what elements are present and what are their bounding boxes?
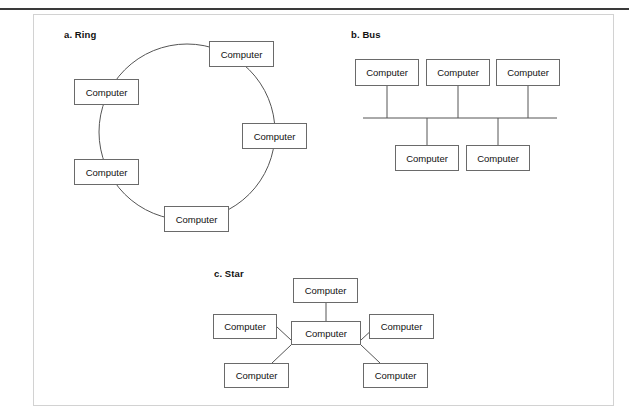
node-label: Computer <box>86 87 128 98</box>
bus-node-bottom-right[interactable]: Computer <box>466 145 530 171</box>
bus-node-top-center[interactable]: Computer <box>426 59 490 86</box>
node-label: Computer <box>86 167 128 178</box>
node-label: Computer <box>406 153 448 164</box>
node-label: Computer <box>437 67 479 78</box>
figure-page: a. Ring Computer Computer Computer Compu… <box>0 0 629 419</box>
star-spoke-bottom-left <box>272 345 291 363</box>
caption-divider-rule <box>0 8 629 10</box>
ring-node-top[interactable]: Computer <box>209 41 274 67</box>
ring-node-left-upper[interactable]: Computer <box>74 79 139 105</box>
bus-node-top-right[interactable]: Computer <box>496 59 560 86</box>
node-label: Computer <box>176 214 218 225</box>
ring-node-left-lower[interactable]: Computer <box>74 159 139 185</box>
bus-node-bottom-left[interactable]: Computer <box>395 145 459 171</box>
node-label: Computer <box>366 67 408 78</box>
star-spoke-bottom-right <box>361 345 380 363</box>
ring-node-bottom[interactable]: Computer <box>164 206 229 232</box>
star-node-bottom-left[interactable]: Computer <box>224 363 289 388</box>
star-node-top[interactable]: Computer <box>293 278 358 303</box>
node-label: Computer <box>236 370 278 381</box>
star-spoke-left <box>277 327 291 340</box>
node-label: Computer <box>221 49 263 60</box>
star-node-left[interactable]: Computer <box>213 314 277 339</box>
node-label: Computer <box>254 131 296 142</box>
node-label: Computer <box>305 328 347 339</box>
bus-node-top-left[interactable]: Computer <box>355 59 419 86</box>
figure-frame: a. Ring Computer Computer Computer Compu… <box>33 14 614 406</box>
ring-node-right[interactable]: Computer <box>242 123 307 149</box>
node-label: Computer <box>375 370 417 381</box>
node-label: Computer <box>477 153 519 164</box>
node-label: Computer <box>305 285 347 296</box>
star-node-hub[interactable]: Computer <box>291 321 361 345</box>
figure-caption-fragment <box>10 0 310 6</box>
node-label: Computer <box>224 321 266 332</box>
star-node-right[interactable]: Computer <box>369 314 434 339</box>
node-label: Computer <box>507 67 549 78</box>
node-label: Computer <box>381 321 423 332</box>
star-node-bottom-right[interactable]: Computer <box>363 363 428 388</box>
